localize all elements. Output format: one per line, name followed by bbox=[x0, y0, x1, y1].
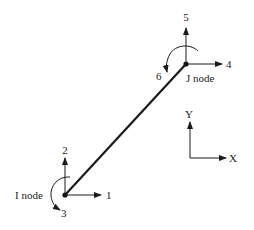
y-axis-label: Y bbox=[185, 108, 193, 120]
i-node-group: 2 1 3 I node bbox=[15, 144, 112, 219]
beam-element-diagram: 5 4 6 J node 2 1 3 I node Y X bbox=[0, 0, 254, 230]
global-axes: Y X bbox=[185, 108, 237, 164]
j-node-label: J node bbox=[186, 72, 215, 84]
dof-1-label: 1 bbox=[106, 189, 112, 201]
i-node-label: I node bbox=[15, 189, 43, 201]
dof-5-label: 5 bbox=[183, 11, 189, 23]
dof-4-label: 4 bbox=[226, 58, 232, 70]
dof-6-label: 6 bbox=[156, 70, 162, 82]
x-axis-label: X bbox=[229, 152, 237, 164]
beam-element bbox=[65, 64, 186, 195]
j-node-group: 5 4 6 J node bbox=[156, 11, 232, 84]
dof-2-label: 2 bbox=[62, 144, 68, 156]
dof-3-label: 3 bbox=[61, 207, 67, 219]
